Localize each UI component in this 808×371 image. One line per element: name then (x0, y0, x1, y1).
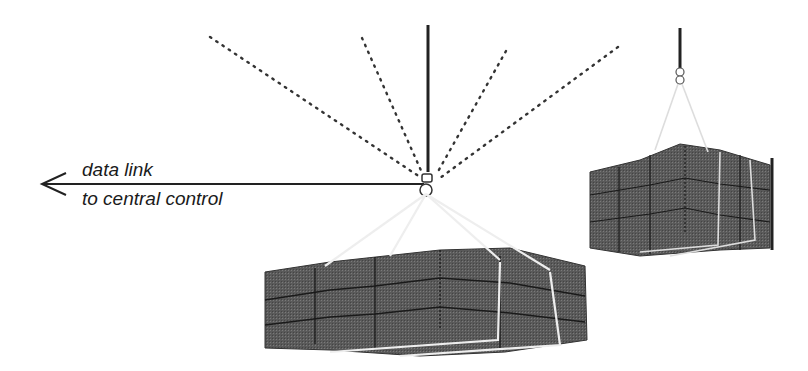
data-link-label-line1: data link (82, 160, 153, 179)
data-link-label-line2: to central control (82, 189, 222, 208)
load-main (265, 194, 587, 356)
hook-secondary-icon (676, 68, 684, 84)
load-secondary (590, 84, 772, 256)
diagram-canvas: data link to central control (0, 0, 808, 371)
signal-rays-icon (210, 37, 618, 178)
hook-main-icon (420, 174, 432, 196)
